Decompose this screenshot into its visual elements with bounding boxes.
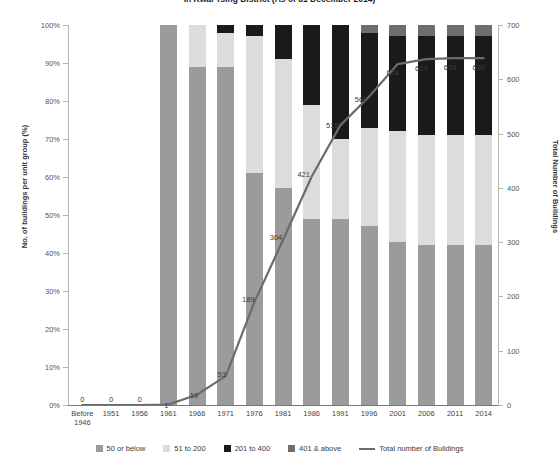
y-tick-label-left: 50%: [45, 211, 60, 220]
y-tick-label-right: 600: [507, 75, 520, 84]
y-axis-right-line: [498, 25, 499, 405]
bar-column: [303, 25, 320, 405]
bar-segment: [217, 25, 234, 33]
bar-column: [475, 25, 492, 405]
bar-segment: [303, 219, 320, 405]
legend-line-icon: [359, 448, 375, 450]
y-tick-label-left: 40%: [45, 249, 60, 258]
chart-title: in Kwai Tsing District (As of 31 Decembe…: [0, 0, 559, 5]
y-tick-right: [498, 134, 503, 135]
bar-segment: [189, 67, 206, 405]
bar-segment: [447, 36, 464, 135]
y-tick-label-right: 300: [507, 238, 520, 247]
bar-column: [160, 25, 177, 405]
x-axis-line: [68, 405, 498, 406]
y-tick-right: [498, 25, 503, 26]
bar-segment: [475, 25, 492, 36]
bar-segment: [361, 25, 378, 33]
bar-group: [68, 25, 498, 405]
y-tick-right: [498, 296, 503, 297]
legend-swatch-icon: [288, 445, 295, 452]
bar-segment: [246, 25, 263, 36]
bar-segment: [217, 33, 234, 67]
bar-segment: [389, 131, 406, 241]
bar-segment: [303, 25, 320, 105]
bar-stack: [332, 25, 349, 405]
bar-segment: [160, 25, 177, 405]
bar-column: [275, 25, 292, 405]
legend-item[interactable]: 201 to 400: [224, 444, 270, 453]
bar-segment: [246, 173, 263, 405]
line-value-label: 421: [289, 170, 319, 179]
y-tick-right: [498, 242, 503, 243]
legend-item[interactable]: 401 & above: [288, 444, 341, 453]
y-tick-label-right: 0: [507, 401, 511, 410]
bar-stack: [275, 25, 292, 405]
y-tick-right: [498, 405, 503, 406]
legend-label: 201 to 400: [235, 444, 270, 453]
y-tick-label-right: 200: [507, 292, 520, 301]
line-value-label: 639: [435, 63, 465, 72]
bar-segment: [475, 36, 492, 135]
bar-segment: [189, 25, 206, 67]
y-tick-label-right: 100: [507, 346, 520, 355]
chart-container: in Kwai Tsing District (As of 31 Decembe…: [0, 0, 559, 464]
bar-column: [103, 25, 120, 405]
line-value-label: 19: [179, 391, 209, 400]
bar-segment: [447, 25, 464, 36]
bar-stack: [361, 25, 378, 405]
plot-area: 0%10%20%30%40%50%60%70%80%90%100% 010020…: [68, 25, 498, 405]
bar-stack: [475, 25, 492, 405]
line-value-label: 53: [207, 370, 237, 379]
bar-segment: [217, 67, 234, 405]
line-value-label: 0: [125, 395, 155, 404]
y-tick-label-left: 20%: [45, 325, 60, 334]
bar-stack: [447, 25, 464, 405]
y-tick-label-left: 30%: [45, 287, 60, 296]
line-value-label: 628: [378, 68, 408, 77]
bar-segment: [361, 128, 378, 227]
legend-item[interactable]: 51 to 200: [163, 444, 205, 453]
legend-label: Total number of Buildings: [379, 444, 463, 453]
y-tick-right: [498, 188, 503, 189]
bar-column: [74, 25, 91, 405]
line-value-label: 568: [346, 95, 376, 104]
bar-segment: [418, 135, 435, 245]
legend-item[interactable]: 50 or below: [96, 444, 146, 453]
line-value-label: 639: [464, 63, 494, 72]
bar-column: [131, 25, 148, 405]
bar-stack: [389, 25, 406, 405]
bar-column: [246, 25, 263, 405]
legend-label: 51 to 200: [174, 444, 205, 453]
bar-column: [332, 25, 349, 405]
bar-segment: [275, 25, 292, 59]
legend-label: 50 or below: [107, 444, 146, 453]
legend-label: 401 & above: [299, 444, 341, 453]
bar-segment: [275, 59, 292, 188]
bar-segment: [361, 33, 378, 128]
y-tick-label-right: 500: [507, 129, 520, 138]
bar-column: [189, 25, 206, 405]
bar-stack: [160, 25, 177, 405]
bar-column: [447, 25, 464, 405]
bar-segment: [447, 245, 464, 405]
line-value-label: 515: [317, 121, 347, 130]
y-tick-label-left: 70%: [45, 135, 60, 144]
bar-stack: [303, 25, 320, 405]
bar-segment: [361, 226, 378, 405]
bar-stack: [246, 25, 263, 405]
y-tick-label-left: 60%: [45, 173, 60, 182]
y-tick-label-left: 10%: [45, 363, 60, 372]
line-value-label: 637: [406, 64, 436, 73]
line-value-label: 0: [96, 395, 126, 404]
y-axis-left-title: No. of buildings per unit group (%): [20, 87, 29, 287]
legend-item[interactable]: Total number of Buildings: [359, 444, 463, 453]
bar-segment: [275, 188, 292, 405]
y-tick-label-left: 80%: [45, 97, 60, 106]
bar-segment: [389, 36, 406, 131]
line-value-label: 304: [261, 233, 291, 242]
bar-segment: [332, 219, 349, 405]
y-tick-right: [498, 79, 503, 80]
bar-segment: [418, 25, 435, 36]
x-axis-label: 2014: [461, 409, 507, 418]
